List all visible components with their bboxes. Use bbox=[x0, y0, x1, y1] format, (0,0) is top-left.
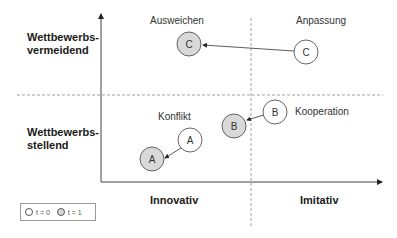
x-label-innovativ: Innovativ bbox=[150, 194, 198, 206]
node-a-t1: A bbox=[140, 147, 164, 171]
svg-text:C: C bbox=[302, 47, 309, 58]
svg-text:A: A bbox=[149, 154, 156, 165]
y-label-bottom-line2: stellend bbox=[27, 139, 99, 152]
arrow-c bbox=[203, 45, 294, 51]
y-label-top-line2: vermeidend bbox=[27, 44, 99, 57]
legend-t0-circle-icon bbox=[25, 208, 33, 216]
node-c-t0: C bbox=[294, 40, 318, 64]
node-b-t0: B bbox=[263, 100, 287, 124]
arrow-a bbox=[165, 148, 181, 158]
y-label-top-line1: Wettbewerbs- bbox=[27, 31, 99, 44]
node-c-t1: C bbox=[177, 32, 201, 56]
quadrant-label-kooperation: Kooperation bbox=[295, 106, 349, 117]
quadrant-label-konflikt: Konflikt bbox=[158, 111, 191, 122]
svg-text:B: B bbox=[272, 107, 279, 118]
svg-text:B: B bbox=[231, 121, 238, 132]
y-label-bottom-line1: Wettbewerbs- bbox=[27, 126, 99, 139]
svg-text:C: C bbox=[185, 39, 192, 50]
quadrant-label-anpassung: Anpassung bbox=[296, 15, 346, 26]
legend-t1-circle-icon bbox=[57, 208, 65, 216]
quadrant-label-ausweichen: Ausweichen bbox=[150, 15, 204, 26]
node-a-t0: A bbox=[178, 128, 202, 152]
x-label-imitativ: Imitativ bbox=[300, 194, 339, 206]
svg-text:A: A bbox=[187, 135, 194, 146]
legend: t = 0 t = 1 bbox=[20, 203, 96, 221]
legend-t1-label: t = 1 bbox=[68, 209, 82, 216]
legend-t0-label: t = 0 bbox=[36, 209, 50, 216]
node-b-t1: B bbox=[222, 114, 246, 138]
y-label-top: Wettbewerbs- vermeidend bbox=[27, 31, 99, 57]
arrow-b bbox=[247, 115, 264, 120]
y-label-bottom: Wettbewerbs- stellend bbox=[27, 126, 99, 152]
